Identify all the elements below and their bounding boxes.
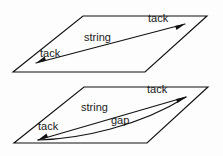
lower-right-tack-label: tack	[147, 83, 168, 95]
lower-gap-label: gap	[111, 114, 129, 126]
upper-right-tack-label: tack	[148, 12, 169, 24]
lower-panel: string tack tack gap	[14, 83, 208, 143]
upper-panel: string tack tack	[13, 12, 207, 72]
diagram-svg: string tack tack string tack tack gap	[0, 0, 223, 156]
lower-string-label: string	[81, 101, 108, 113]
lower-left-tack-label: tack	[38, 120, 59, 132]
upper-string-label: string	[84, 31, 111, 43]
diagram-canvas: string tack tack string tack tack gap	[0, 0, 223, 156]
upper-left-tack-label: tack	[40, 47, 61, 59]
